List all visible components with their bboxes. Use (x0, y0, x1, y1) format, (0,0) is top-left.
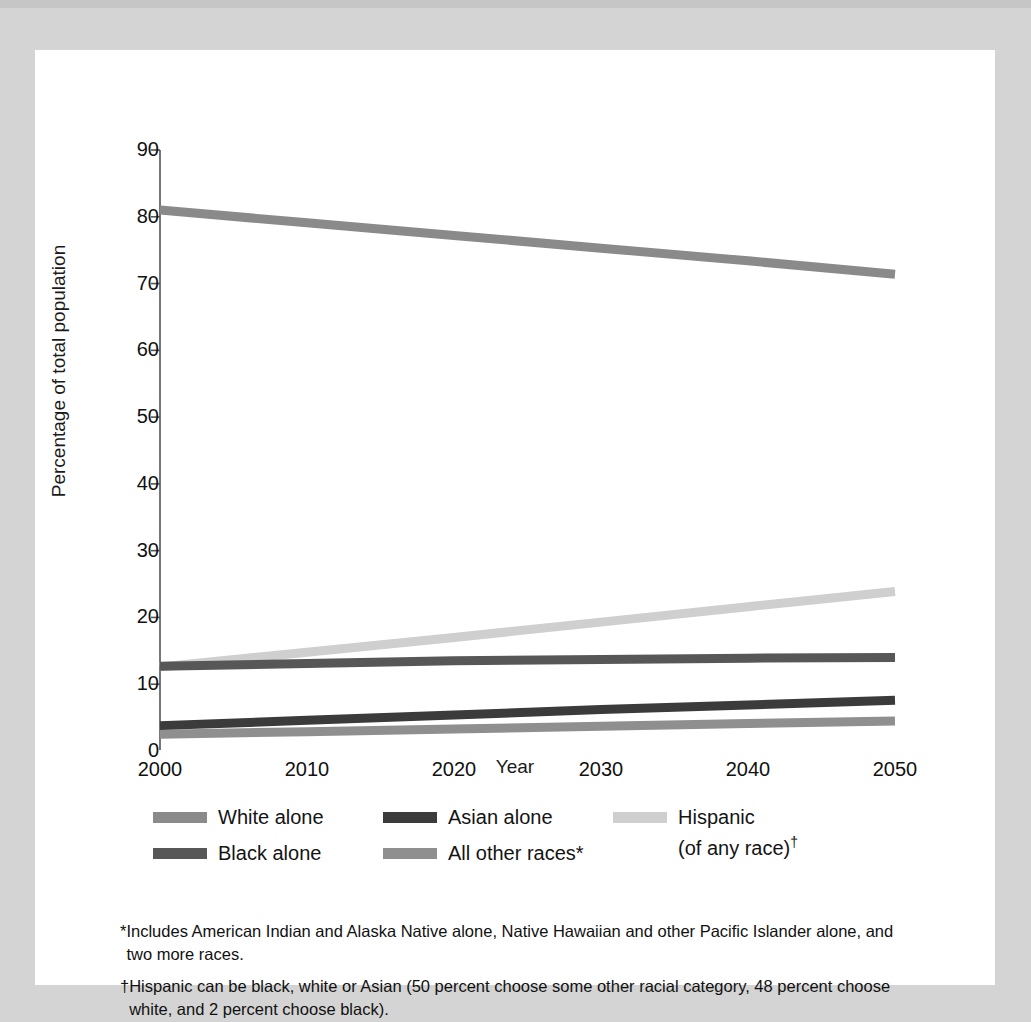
chart-card: 90 80 70 60 50 40 30 20 10 0 2000 2010 2… (35, 50, 995, 985)
legend-item-black-alone[interactable]: Black alone (153, 841, 321, 866)
y-tick-60: 60 (113, 338, 159, 361)
legend-hispanic-dagger: † (790, 834, 798, 850)
footnote-dagger-mark: † (120, 975, 129, 1021)
legend-item-hispanic[interactable]: Hispanic (of any race)† (613, 805, 798, 861)
y-tick-30: 30 (113, 539, 159, 562)
legend-item-white-alone[interactable]: White alone (153, 805, 324, 830)
legend-label-asian-alone: Asian alone (448, 805, 553, 830)
series-group (160, 210, 895, 734)
footnote-asterisk: * Includes American Indian and Alaska Na… (120, 920, 920, 966)
y-tick-10: 10 (113, 672, 159, 695)
chart-footnotes: * Includes American Indian and Alaska Na… (120, 920, 920, 1022)
legend-label-hispanic-text: Hispanic (of any race) (678, 806, 790, 859)
legend-label-all-other-races: All other races* (448, 841, 584, 866)
y-tick-70: 70 (113, 272, 159, 295)
legend-swatch-hispanic (613, 812, 667, 823)
legend-label-black-alone: Black alone (218, 841, 321, 866)
page-top-edge (0, 0, 1031, 8)
legend-label-white-alone: White alone (218, 805, 324, 830)
legend-swatch-asian-alone (383, 812, 437, 823)
line-chart-svg (35, 50, 995, 750)
legend-item-all-other-races[interactable]: All other races* (383, 841, 584, 866)
chart-plot-area: 90 80 70 60 50 40 30 20 10 0 2000 2010 2… (35, 50, 995, 750)
page-background: 90 80 70 60 50 40 30 20 10 0 2000 2010 2… (0, 0, 1031, 1022)
legend-swatch-all-other-races (383, 848, 437, 859)
y-tick-40: 40 (113, 472, 159, 495)
footnote-dagger: † Hispanic can be black, white or Asian … (120, 975, 920, 1021)
x-axis-title: Year (35, 756, 995, 778)
legend-swatch-black-alone (153, 848, 207, 859)
y-tick-20: 20 (113, 605, 159, 628)
footnote-dagger-text: Hispanic can be black, white or Asian (5… (129, 975, 920, 1021)
footnote-asterisk-text: Includes American Indian and Alaska Nati… (126, 920, 920, 966)
legend-label-hispanic: Hispanic (of any race)† (678, 805, 798, 861)
y-axis-title: Percentage of total population (48, 111, 70, 631)
y-tick-80: 80 (113, 205, 159, 228)
legend-swatch-white-alone (153, 812, 207, 823)
chart-legend: White alone Black alone Asian alone All … (35, 805, 995, 910)
y-tick-90: 90 (113, 138, 159, 161)
legend-item-asian-alone[interactable]: Asian alone (383, 805, 553, 830)
y-tick-50: 50 (113, 405, 159, 428)
